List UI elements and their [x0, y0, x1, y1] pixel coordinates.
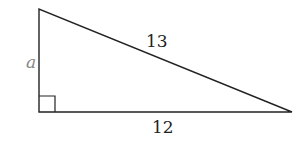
right-triangle [39, 9, 292, 112]
hypotenuse-label: 13 [146, 31, 168, 51]
vertical-leg-label: a [26, 52, 36, 72]
right-angle-marker [39, 96, 55, 112]
horizontal-leg-label: 12 [152, 117, 174, 137]
triangle-diagram: a 13 12 [0, 0, 304, 145]
